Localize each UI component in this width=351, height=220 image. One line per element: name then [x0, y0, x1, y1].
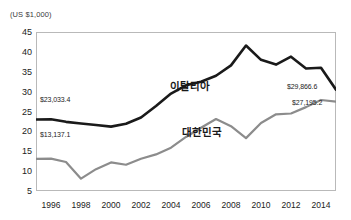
x-tick-label: 1998: [72, 200, 91, 210]
series-label-italy: 이탈리아: [170, 78, 210, 93]
line-chart: (US $1,000) 45403530252015105 1996199820…: [0, 0, 351, 220]
x-tick-label: 1996: [42, 200, 61, 210]
y-tick-label: 40: [8, 47, 32, 57]
y-tick-label: 35: [8, 67, 32, 77]
line-korea: [36, 100, 336, 179]
y-tick-label: 10: [8, 166, 32, 176]
x-tick-label: 2000: [102, 200, 121, 210]
y-tick-label: 30: [8, 87, 32, 97]
annotation-korea-end: $27,195.2: [292, 99, 322, 106]
series-label-korea: 대한민국: [182, 124, 222, 139]
y-tick-label: 25: [8, 107, 32, 117]
x-tick-label: 2004: [162, 200, 181, 210]
annotation-italy-start: $23,033.4: [40, 96, 70, 103]
x-tick-label: 2012: [282, 200, 301, 210]
x-tick-label: 2002: [132, 200, 151, 210]
annotation-italy-end: $29,866.6: [287, 83, 317, 90]
y-tick-label: 45: [8, 27, 32, 37]
x-tick-label: 2008: [222, 200, 241, 210]
annotation-korea-start: $13,137.1: [40, 131, 70, 138]
y-tick-label: 5: [8, 186, 32, 196]
y-tick-label: 20: [8, 126, 32, 136]
y-tick-label: 15: [8, 146, 32, 156]
series-lines: [36, 32, 336, 191]
x-tick-label: 2006: [192, 200, 211, 210]
y-axis-tick-labels: 45403530252015105: [8, 0, 32, 220]
x-tick-label: 2014: [312, 200, 331, 210]
x-tick-label: 2010: [252, 200, 271, 210]
